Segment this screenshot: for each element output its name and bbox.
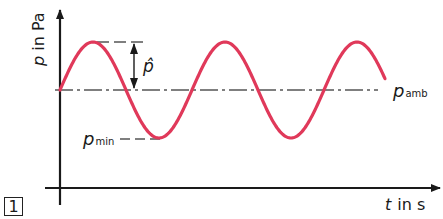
- y-axis-label: p in Pa: [29, 12, 48, 67]
- sound-pressure-diagram: p in Pa p̂ pamb pmin tin s: [0, 0, 443, 219]
- ambient-pressure-label: pamb: [392, 80, 428, 101]
- amplitude-label: p̂: [142, 56, 154, 76]
- amplitude-arrow: [130, 43, 138, 89]
- figure-number-box: 1: [4, 197, 23, 216]
- x-axis-label: tin s: [385, 195, 425, 214]
- minimum-pressure-label: pmin: [82, 128, 114, 149]
